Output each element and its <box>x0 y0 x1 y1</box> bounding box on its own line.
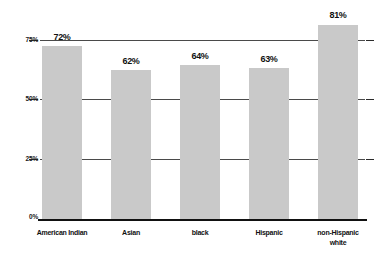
category-label-line2: white <box>330 239 347 246</box>
plot-area: 75% 50% 25% 0% 72% 62% 64% 63% 81% Ameri… <box>0 0 379 268</box>
category-label-hispanic: Hispanic <box>231 228 307 238</box>
category-label-asian: Asian <box>93 228 169 238</box>
bar-value-american-indian: 72% <box>42 33 82 42</box>
category-label-non-hispanic-white: non-Hispanic white <box>300 228 376 247</box>
category-label-line1: Hispanic <box>255 229 282 236</box>
bar-non-hispanic-white <box>318 25 358 219</box>
bar-american-indian <box>42 46 82 219</box>
category-label-line1: non-Hispanic <box>317 229 358 236</box>
bar-value-hispanic: 63% <box>249 55 289 64</box>
bar-chart: 75% 50% 25% 0% 72% 62% 64% 63% 81% Ameri… <box>0 0 379 268</box>
category-label-line1: Asian <box>122 229 140 236</box>
bar-black <box>180 65 220 219</box>
ytick-dash-right-75 <box>366 40 374 41</box>
bar-value-non-hispanic-white: 81% <box>318 11 358 20</box>
category-label-line1: black <box>192 229 209 236</box>
x-axis-baseline <box>38 219 367 221</box>
gridline-75 <box>40 40 365 41</box>
ytick-dash-right-25 <box>366 159 374 160</box>
bar-value-black: 64% <box>180 52 220 61</box>
ytick-label-0: 0% <box>29 214 38 221</box>
bar-asian <box>111 70 151 219</box>
ytick-label-25: 25% <box>26 156 38 163</box>
ytick-dash-right-50 <box>366 99 374 100</box>
ytick-label-75: 75% <box>26 37 38 44</box>
category-label-american-indian: American Indian <box>24 228 100 238</box>
bar-hispanic <box>249 68 289 219</box>
ytick-label-50: 50% <box>26 96 38 103</box>
category-label-black: black <box>162 228 238 238</box>
bar-value-asian: 62% <box>111 57 151 66</box>
category-label-line1: American Indian <box>37 229 88 236</box>
